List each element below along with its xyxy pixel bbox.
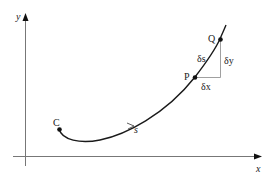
delta-y-label: δy [224, 55, 234, 66]
y-axis-label: y [15, 11, 21, 22]
x-axis-arrow-icon [254, 154, 262, 160]
arc-length-diagram: y x s C δs δy δx P [0, 0, 277, 176]
increment-triangle: δs δy δx [195, 39, 234, 92]
x-axis-label: x [255, 163, 261, 174]
y-axis-arrow-icon [23, 13, 29, 21]
point-p-label: P [184, 71, 190, 82]
x-axis: x [13, 154, 262, 175]
y-axis: y [15, 11, 29, 166]
point-c-label: C [53, 117, 60, 128]
delta-x-label: δx [201, 81, 211, 92]
direction-label: s [134, 124, 138, 135]
point-q-label: Q [208, 33, 216, 44]
point-c: C [53, 117, 62, 132]
point-p: P [184, 71, 197, 82]
delta-s-label: δs [197, 53, 206, 64]
